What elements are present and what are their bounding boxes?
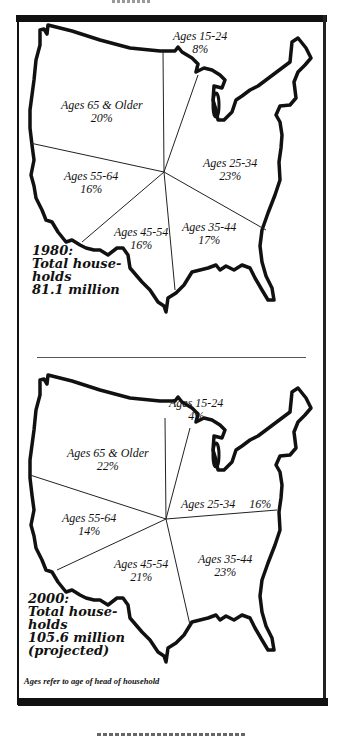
section-divider — [37, 357, 306, 358]
label-1980-35-44: Ages 35-4417% — [182, 221, 236, 247]
label-1980-55-64: Ages 55-6416% — [64, 170, 118, 196]
label-2000-55-64: Ages 55-6414% — [62, 512, 116, 538]
label-1980-15-24: Ages 15-248% — [173, 30, 227, 56]
label-1980-25-34: Ages 25-3423% — [203, 157, 257, 183]
label-1980-65-older: Ages 65 & Older20% — [61, 99, 143, 125]
label-2000-65-older: Ages 65 & Older22% — [67, 447, 149, 473]
total-1980: 1980: Total house- holds 81.1 million — [32, 244, 121, 296]
label-2000-25-34: Ages 25-3416% — [181, 498, 271, 511]
footnote: Ages refer to age of head of household — [24, 676, 159, 686]
label-2000-15-24: Ages 15-244% — [169, 397, 223, 423]
label-2000-35-44: Ages 35-4423% — [198, 553, 252, 579]
total-2000: 2000: Total house- holds 105.6 million (… — [28, 592, 125, 657]
label-2000-45-54: Ages 45-5421% — [114, 558, 168, 584]
label-1980-45-54: Ages 45-5416% — [114, 226, 168, 252]
